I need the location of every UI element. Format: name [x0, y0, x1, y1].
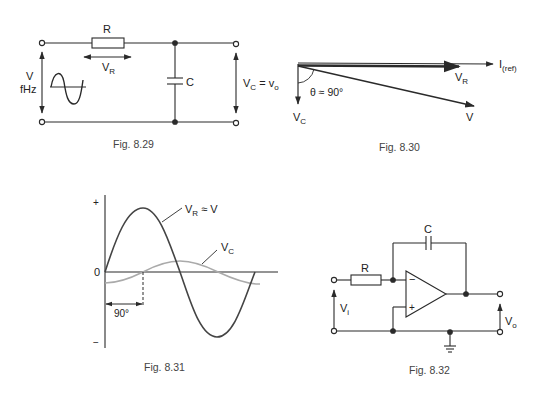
plus-label: +: [93, 197, 99, 208]
caption-fig-8-32: Fig. 8.32: [409, 364, 450, 376]
angle-arc: [298, 69, 314, 83]
resistor-symbol: [351, 275, 381, 285]
v-phasor-label: V: [466, 111, 474, 123]
vc-curve-label: VC: [221, 241, 234, 256]
vi-label: Vi: [340, 302, 349, 317]
theta-label: θ ≈ 90°: [310, 86, 343, 98]
resistor-label: R: [103, 23, 111, 35]
phase-label: 90°: [114, 308, 129, 319]
output-voltage-label: VC = vo: [243, 77, 279, 92]
i-ref-phasor: [298, 63, 493, 64]
vr-curve-label: VR ≈ V: [185, 203, 218, 218]
minus-label: −: [93, 337, 99, 348]
r-label: R: [361, 262, 369, 274]
sine-source-icon: [50, 74, 86, 104]
input-terminal-top: [39, 40, 44, 45]
figure-8-29: [39, 38, 238, 126]
source-frequency-label: fHz: [20, 83, 37, 95]
noninverting-input-label: +: [409, 302, 415, 313]
figure-8-32: [331, 236, 502, 352]
vr-label: VR: [102, 61, 115, 76]
vc-phasor-label: VC: [293, 111, 306, 126]
caption-fig-8-30: Fig. 8.30: [379, 141, 420, 153]
vr-phasor: [298, 66, 459, 67]
inverting-input-label: −: [409, 273, 415, 285]
output-terminal-bottom: [233, 120, 238, 125]
i-ref-label: I(ref): [499, 58, 517, 73]
input-terminal-bottom: [39, 119, 44, 124]
vr-phasor-label: VR: [455, 71, 468, 86]
caption-fig-8-31: Fig. 8.31: [144, 361, 185, 373]
capacitor-label: C: [186, 76, 194, 88]
caption-fig-8-29: Fig. 8.29: [113, 138, 154, 150]
vo-label: Vo: [505, 315, 517, 330]
output-terminal-top: [233, 41, 238, 46]
c-label: C: [424, 223, 432, 235]
source-voltage-label: V: [26, 70, 34, 82]
zero-label: 0: [94, 266, 100, 278]
resistor-symbol: [92, 38, 124, 48]
